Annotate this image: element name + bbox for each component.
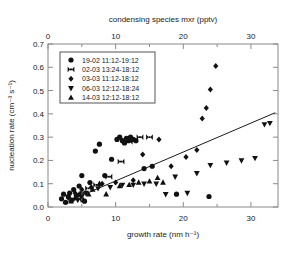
data-point-s0 [87, 180, 92, 185]
data-point-s1 [110, 174, 113, 180]
plot-canvas: 001010202030300.00.10.20.30.40.50.60.7gr… [0, 0, 292, 261]
data-point-s0 [206, 194, 211, 199]
data-point-s4 [126, 182, 132, 187]
data-point-s0 [97, 142, 102, 147]
data-point-s0 [109, 157, 114, 162]
data-point-s3 [153, 182, 159, 187]
data-point-s3 [172, 175, 178, 180]
data-point-s1 [93, 182, 96, 188]
y-tick-label: 0.6 [33, 63, 45, 72]
x-tick-label: 10 [111, 214, 120, 223]
trend-line [63, 113, 275, 204]
legend-marker-0 [68, 57, 73, 62]
data-point-s1 [128, 141, 130, 143]
data-point-s2 [131, 177, 136, 183]
y-tick-label: 0.5 [33, 87, 45, 96]
scatter-plot-figure: 001010202030300.00.10.20.30.40.50.60.7gr… [0, 0, 292, 261]
data-point-s1 [146, 134, 149, 140]
y-tick-label: 0.0 [33, 203, 45, 212]
x2-tick-label: 10 [111, 32, 120, 41]
data-point-s3 [107, 185, 113, 190]
data-point-s2 [204, 105, 209, 111]
data-point-s1 [118, 159, 121, 165]
legend-label-4: 14-03 12:12-18:12 [82, 94, 139, 101]
data-point-s2 [200, 116, 205, 122]
data-point-s1 [122, 159, 125, 165]
y-tick-label: 0.1 [33, 180, 45, 189]
data-point-s0 [150, 164, 155, 169]
data-point-s2 [208, 86, 213, 92]
x-tick-label: 20 [179, 214, 188, 223]
data-point-s0 [61, 192, 66, 197]
data-point-s3 [184, 191, 190, 196]
y-tick-label: 0.4 [33, 110, 45, 119]
data-point-s4 [136, 179, 142, 184]
legend-label-2: 03-03 11:12-18:12 [82, 75, 139, 82]
data-point-s3 [194, 171, 200, 176]
data-point-s3 [262, 122, 268, 127]
legend-label-0: 19-02 11:12-19:12 [82, 57, 139, 64]
data-point-s1 [148, 136, 150, 138]
data-point-s0 [59, 196, 64, 201]
data-point-s4 [103, 191, 109, 196]
data-point-s2 [213, 63, 218, 69]
data-point-s2 [140, 152, 145, 158]
legend-marker-1 [70, 69, 72, 71]
x2-tick-label: 30 [246, 32, 255, 41]
data-point-s3 [267, 121, 273, 126]
data-point-s0 [133, 138, 138, 143]
data-point-s1 [150, 134, 153, 140]
legend-label-3: 06-03 12:12-18:24 [82, 85, 139, 92]
y-axis-title: nucleation rate (cm⁻³ s⁻¹) [7, 80, 16, 171]
x-tick-label: 30 [246, 214, 255, 223]
data-point-s3 [141, 182, 147, 187]
data-point-s0 [79, 173, 84, 178]
data-point-s0 [67, 190, 72, 195]
x2-tick-label: 0 [46, 32, 51, 41]
data-point-s3 [224, 161, 230, 166]
data-point-s2 [194, 147, 199, 153]
y-tick-label: 0.7 [33, 40, 45, 49]
x2-axis-title: condensing species mxr (pptv) [109, 15, 218, 24]
data-point-s0 [141, 166, 146, 171]
x-axis-title: growth rate (nm h⁻¹) [127, 230, 200, 239]
data-point-s3 [239, 158, 245, 163]
data-point-s1 [108, 176, 110, 178]
data-point-s1 [141, 134, 144, 140]
data-point-s4 [147, 178, 153, 183]
data-point-s2 [183, 154, 188, 160]
data-point-s0 [63, 200, 68, 205]
data-point-s2 [156, 136, 161, 142]
data-point-s4 [155, 175, 161, 180]
data-point-s3 [163, 192, 169, 197]
legend-label-1: 02-03 13:24-18:12 [82, 66, 139, 73]
data-point-s3 [207, 163, 213, 168]
x-tick-label: 0 [46, 214, 51, 223]
data-point-s2 [169, 163, 174, 169]
data-point-s0 [174, 192, 179, 197]
data-point-s1 [139, 136, 141, 138]
data-point-s0 [93, 149, 98, 154]
y-tick-label: 0.2 [33, 156, 45, 165]
data-point-s3 [130, 183, 136, 188]
y-tick-label: 0.3 [33, 133, 45, 142]
data-point-s3 [252, 156, 258, 161]
data-point-s1 [120, 161, 122, 163]
data-point-s4 [160, 179, 166, 184]
x2-tick-label: 20 [179, 32, 188, 41]
